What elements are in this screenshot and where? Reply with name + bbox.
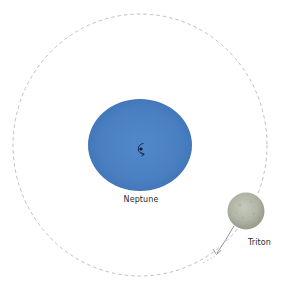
neptune-label: Neptune [121,195,161,204]
rotation-axis-dot [139,147,142,150]
triton-orbit-diagram [0,0,282,284]
triton-label: Triton [248,238,271,247]
triton-moon [228,193,265,230]
triton-motion-arrow-icon [203,226,234,263]
